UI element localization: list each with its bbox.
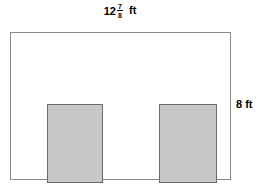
shaded-rectangle-right: [159, 104, 217, 183]
geometry-figure: 12 7 8 ft 8 ft: [0, 0, 262, 192]
top-dimension-label: 12 7 8 ft: [0, 3, 240, 19]
fraction-numerator: 7: [117, 3, 123, 11]
shaded-rectangle-left: [47, 104, 103, 183]
top-unit-label: ft: [129, 4, 136, 16]
fraction-denominator: 8: [117, 11, 123, 19]
mixed-number-12-7-8: 12 7 8: [104, 3, 124, 19]
whole-number-part: 12: [104, 6, 116, 17]
fraction-seven-eighths: 7 8: [117, 3, 123, 19]
right-dimension-label: 8 ft: [236, 99, 253, 110]
room-outline-rectangle: [10, 32, 231, 180]
